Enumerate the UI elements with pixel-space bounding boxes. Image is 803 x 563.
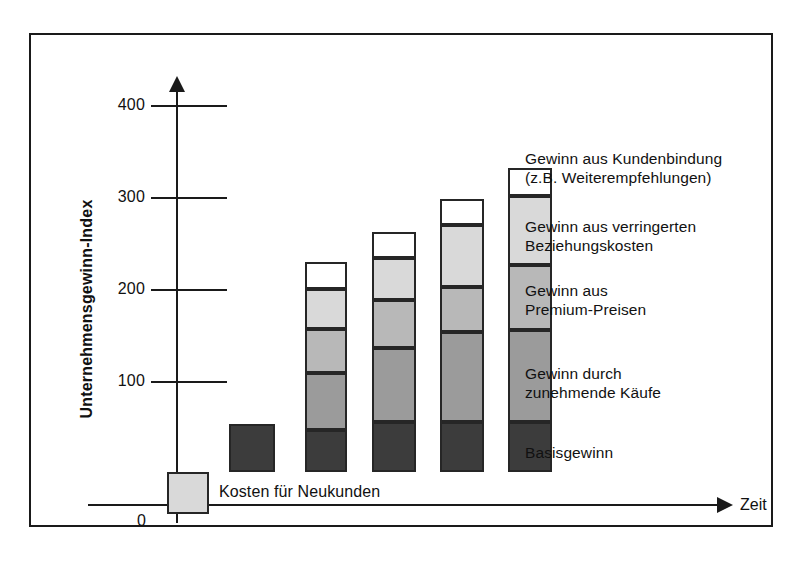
x-axis-title: Zeit [740, 496, 767, 514]
legend-item-premium-preise: Gewinn aus Premium-Preisen [525, 281, 646, 319]
bar-segment-kundenbindung [305, 262, 347, 289]
bar-segment-beziehungskosten [305, 289, 347, 329]
legend-item-beziehungskosten: Gewinn aus verringerten Beziehungskosten [525, 217, 696, 255]
bar-year-4 [440, 199, 484, 472]
legend-item-basisgewinn: Basisgewinn [525, 443, 613, 462]
bar-segment-kundenbindung [440, 199, 484, 225]
legend-item-kundenbindung: Gewinn aus Kundenbindung (z.B. Weiteremp… [525, 149, 722, 187]
bar-segment-zunehmende-kaeufe [305, 373, 347, 430]
bar-segment-kundenbindung [372, 232, 416, 258]
y-tick-label-100: 100 [93, 372, 145, 390]
chart-frame: 400 300 200 100 0 Unternehmensgewinn-Ind… [29, 33, 773, 527]
y-tick-300 [151, 197, 227, 199]
bar-segment-basisgewinn [229, 424, 275, 472]
bar-segment-premium-preise [440, 287, 484, 332]
y-axis-line [176, 87, 178, 523]
y-axis-arrow-icon [169, 76, 185, 92]
bar-segment-beziehungskosten [440, 225, 484, 287]
bar-segment-beziehungskosten [372, 258, 416, 300]
bar-segment-basisgewinn [440, 422, 484, 472]
bar-segment-kosten [167, 472, 209, 514]
y-tick-label-400: 400 [93, 96, 145, 114]
x-axis-arrow-icon [717, 497, 733, 513]
bar-year-1 [229, 424, 275, 472]
annotation-kosten-fuer-neukunden: Kosten für Neukunden [219, 483, 380, 501]
y-tick-label-0: 0 [137, 512, 146, 530]
chart-figure: 400 300 200 100 0 Unternehmensgewinn-Ind… [0, 0, 803, 563]
bar-segment-basisgewinn [305, 430, 347, 472]
bar-year-2 [305, 262, 347, 472]
y-tick-200 [151, 289, 227, 291]
bar-segment-zunehmende-kaeufe [440, 332, 484, 422]
y-axis-title: Unternehmensgewinn-Index [78, 199, 96, 419]
y-tick-label-200: 200 [93, 280, 145, 298]
y-tick-label-300: 300 [93, 188, 145, 206]
bar-segment-premium-preise [372, 300, 416, 348]
y-tick-100 [151, 381, 227, 383]
bar-year-3 [372, 232, 416, 472]
y-tick-400 [151, 105, 227, 107]
legend-item-zunehmende-kaeufe: Gewinn durch zunehmende Käufe [525, 364, 661, 402]
bar-year-5 [508, 168, 552, 472]
bar-segment-premium-preise [305, 329, 347, 373]
bar-segment-basisgewinn [372, 422, 416, 472]
bar-kosten-fuer-neukunden [167, 472, 209, 514]
bar-segment-zunehmende-kaeufe [372, 348, 416, 422]
